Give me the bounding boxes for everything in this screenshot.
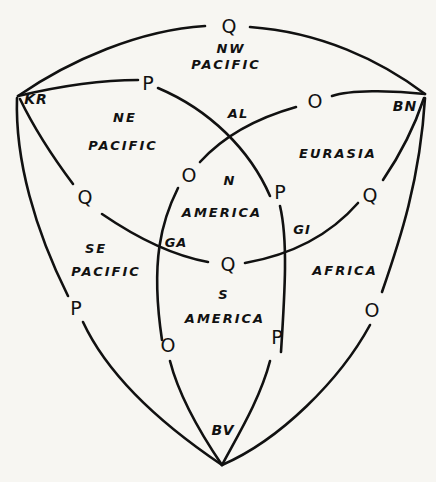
edge-center-o-lower-o: [157, 188, 178, 340]
junction-gi-label: GI: [293, 222, 311, 237]
edge-bn-upper-o: [332, 91, 425, 96]
region-s-america-line2: AMERICA: [185, 311, 265, 326]
vertex-bn-label: BN: [393, 98, 417, 114]
node-lower-p: P: [271, 326, 282, 348]
region-nw-pacific-line2: PACIFIC: [191, 57, 261, 72]
node-left-q: Q: [78, 186, 93, 208]
node-right-o: O: [365, 299, 380, 321]
node-upper-o: O: [308, 90, 323, 112]
edge-kr-top-q: [18, 26, 205, 96]
region-se-pacific-line2: PACIFIC: [71, 264, 141, 279]
edge-top-q-bn: [250, 27, 425, 94]
edge-lower-o-bv: [170, 361, 222, 465]
region-n-america-line1: N: [224, 173, 237, 188]
plate-network-diagram: [0, 0, 436, 482]
node-upper-p: P: [142, 72, 153, 94]
edge-left-p-bv: [83, 322, 222, 465]
junction-ga-label: GA: [165, 235, 188, 250]
node-center-q: Q: [221, 253, 236, 275]
region-n-america-line2: AMERICA: [182, 205, 262, 220]
vertex-kr-label: KR: [24, 91, 48, 107]
region-ne-pacific-line1: NE: [113, 110, 137, 125]
edge-right-o-bv: [222, 325, 370, 465]
edge-kr-left-p: [17, 98, 68, 296]
region-africa-label: AFRICA: [312, 263, 377, 278]
region-nw-pacific-line1: NW: [216, 41, 245, 56]
edge-kr-left-q: [20, 99, 73, 184]
junction-al-label: AL: [228, 106, 248, 121]
region-ne-pacific-line2: PACIFIC: [88, 138, 158, 153]
node-right-q: Q: [363, 184, 378, 206]
vertex-bv-label: BV: [212, 422, 235, 438]
edge-left-q-center-q: [102, 214, 208, 262]
region-se-pacific-line1: SE: [85, 241, 107, 256]
node-top-q: Q: [222, 15, 237, 37]
node-lower-o: O: [161, 334, 176, 356]
node-left-p: P: [70, 297, 81, 319]
region-s-america-line1: S: [218, 287, 229, 302]
edge-upper-p-center-p: [158, 88, 270, 196]
node-center-o: O: [182, 164, 197, 186]
region-eurasia-label: EURASIA: [299, 146, 377, 161]
node-center-p: P: [274, 181, 285, 203]
edge-lower-p-bv: [222, 361, 270, 465]
edge-bn-right-o: [382, 98, 425, 292]
